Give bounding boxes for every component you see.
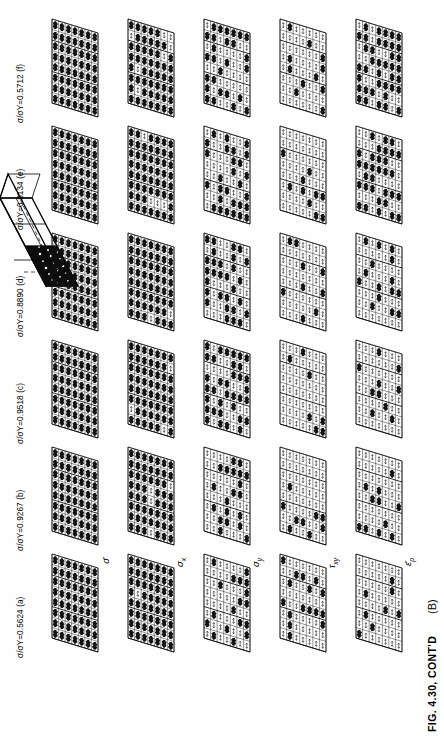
mesh-eps-p-f — [344, 19, 404, 119]
quantity-label-eps-p: ε̄p — [402, 558, 415, 566]
load-case-label-a: σ/σY=0.5624 (a) — [16, 597, 25, 658]
load-case-e: σ/σY=0.8134 (e) — [14, 124, 408, 228]
quantity-subscript-tau-xy: xy — [332, 558, 339, 565]
quantity-symbol-tau-xy: τ — [326, 565, 337, 569]
load-case-b: σ/σY=0.9267 (b) — [14, 445, 408, 549]
load-case-label-e: σ/σY=0.8134 (e) — [16, 169, 25, 230]
mesh-sigma-eff-b — [40, 447, 100, 547]
mesh-eps-p-d — [344, 233, 404, 333]
mesh-sigma-x-c — [116, 340, 176, 440]
rotated-figure-body: σ/σY=0.5624 (a)σ̄σxσyτxyε̄pσ/σY=0.9267 (… — [0, 0, 444, 742]
quantity-subscript-sigma-x: x — [180, 558, 187, 561]
load-case-label-b: σ/σY=0.9267 (b) — [16, 490, 25, 551]
mesh-sigma-x-b — [116, 447, 176, 547]
mesh-sigma-eff-f — [40, 19, 100, 119]
load-case-label-c: σ/σY=0.9518 (c) — [16, 383, 25, 444]
quantity-symbol-sigma-eff: σ̄ — [100, 558, 111, 564]
load-case-d: σ/σY=0.8890 (d) — [14, 231, 408, 335]
quantity-symbol-eps-p: ε̄ — [402, 562, 413, 566]
mesh-sigma-eff-d — [40, 233, 100, 333]
quantity-label-tau-xy: τxy — [326, 558, 339, 568]
mesh-sigma-eff-e — [40, 126, 100, 226]
mesh-tau-xy-c — [268, 340, 328, 440]
figure-caption: FIG. 4.30, CONT'D — [426, 636, 438, 732]
mesh-sigma-x-f — [116, 19, 176, 119]
mesh-sigma-y-e — [192, 126, 252, 226]
quantity-label-sigma-eff: σ̄ — [100, 558, 111, 564]
load-case-f: σ/σY=0.5712 (f) — [14, 17, 408, 121]
load-case-a: σ/σY=0.5624 (a)σ̄σxσyτxyε̄p — [14, 552, 408, 656]
mesh-matrix: σ/σY=0.5624 (a)σ̄σxσyτxyε̄pσ/σY=0.9267 (… — [14, 12, 408, 656]
mesh-eps-p-a: ε̄p — [344, 554, 404, 654]
mesh-tau-xy-d — [268, 233, 328, 333]
mesh-sigma-y-c — [192, 340, 252, 440]
quantity-label-sigma-y: σy — [250, 558, 263, 567]
mesh-sigma-y-d — [192, 233, 252, 333]
mesh-sigma-x-e — [116, 126, 176, 226]
mesh-tau-xy-b — [268, 447, 328, 547]
quantity-subscript-sigma-y: y — [256, 558, 263, 561]
mesh-sigma-x-a: σx — [116, 554, 176, 654]
mesh-eps-p-b — [344, 447, 404, 547]
mesh-sigma-y-a: σy — [192, 554, 252, 654]
mesh-sigma-eff-c — [40, 340, 100, 440]
panel-letter: (B) — [426, 599, 438, 614]
mesh-tau-xy-e — [268, 126, 328, 226]
mesh-eps-p-e — [344, 126, 404, 226]
load-case-label-d: σ/σY=0.8890 (d) — [16, 276, 25, 337]
load-case-c: σ/σY=0.9518 (c) — [14, 338, 408, 442]
figure-page: σ/σY=0.5624 (a)σ̄σxσyτxyε̄pσ/σY=0.9267 (… — [0, 0, 444, 742]
mesh-sigma-y-b — [192, 447, 252, 547]
mesh-sigma-eff-a: σ̄ — [40, 554, 100, 654]
mesh-sigma-x-d — [116, 233, 176, 333]
quantity-symbol-sigma-x: σ — [174, 561, 185, 567]
quantity-label-sigma-x: σx — [174, 558, 187, 567]
mesh-tau-xy-a: τxy — [268, 554, 328, 654]
quantity-subscript-eps-p: p — [408, 558, 415, 562]
load-case-label-f: σ/σY=0.5712 (f) — [16, 64, 25, 123]
quantity-symbol-sigma-y: σ — [250, 561, 261, 567]
mesh-eps-p-c — [344, 340, 404, 440]
mesh-sigma-y-f — [192, 19, 252, 119]
mesh-tau-xy-f — [268, 19, 328, 119]
